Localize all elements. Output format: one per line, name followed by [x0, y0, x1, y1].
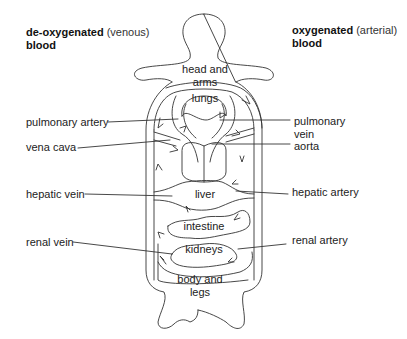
label-pulmonary-vein: pulmonary vein — [294, 115, 345, 141]
label-pulmonary-vein-line1: pulmonary — [294, 115, 345, 127]
label-hepatic-vein: hepatic vein — [26, 188, 85, 201]
organ-liver: liver — [185, 188, 225, 201]
deoxygenated-heading-line2: blood — [26, 39, 56, 51]
arrow — [180, 126, 186, 132]
heart-shape — [182, 143, 226, 182]
oxygenated-heading-light: (arterial) — [356, 24, 397, 36]
label-aorta: aorta — [294, 140, 319, 153]
left-vessel — [146, 130, 154, 280]
arrow — [158, 232, 164, 238]
deoxygenated-heading-light: (venous) — [107, 26, 150, 38]
arrow — [160, 256, 166, 264]
organ-intestine: intestine — [174, 220, 234, 233]
oxygenated-heading-bold: oxygenated — [292, 24, 353, 36]
arrow — [170, 146, 178, 152]
leader-vena-cava — [78, 140, 170, 148]
label-hepatic-artery: hepatic artery — [292, 186, 359, 199]
arrow — [240, 156, 244, 162]
vena-cava — [154, 132, 180, 146]
label-renal-vein: renal vein — [26, 236, 74, 249]
arrow — [232, 180, 238, 184]
leader-renal-vein — [73, 242, 172, 254]
leader-pulmonary-artery — [108, 119, 178, 122]
label-vena-cava: vena cava — [26, 141, 76, 154]
organ-head-and-arms: head and arms — [170, 63, 240, 89]
organ-body-line1: body and — [177, 273, 222, 285]
deoxygenated-heading: de-oxygenated (venous) blood — [26, 26, 150, 52]
flow-arrows — [156, 96, 250, 264]
arrow — [186, 206, 190, 212]
organ-lungs: lungs — [185, 92, 225, 105]
organ-body-line2: legs — [190, 286, 210, 298]
organ-body-and-legs: body and legs — [170, 273, 230, 299]
label-pulmonary-vein-line2: vein — [294, 128, 314, 140]
pulmonary-vessels — [172, 96, 235, 162]
arrow — [156, 164, 162, 170]
deoxygenated-heading-bold: de-oxygenated — [26, 26, 104, 38]
arrow — [234, 214, 240, 220]
leader-hepatic-vein — [85, 194, 172, 196]
organ-kidneys: kidneys — [174, 243, 234, 256]
label-pulmonary-artery: pulmonary artery — [26, 116, 109, 129]
oxygenated-heading: oxygenated (arterial) blood — [292, 24, 397, 50]
oxygenated-heading-line2: blood — [292, 37, 322, 49]
label-renal-artery: renal artery — [292, 234, 348, 247]
